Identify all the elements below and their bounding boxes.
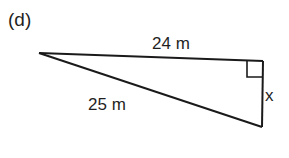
side-x-line xyxy=(262,61,263,127)
side-top-line xyxy=(39,53,263,61)
hypotenuse-label: 25 m xyxy=(88,96,126,113)
hypotenuse-line xyxy=(39,53,262,127)
part-label: (d) xyxy=(8,10,31,29)
side-x-label: x xyxy=(265,87,274,104)
triangle-diagram xyxy=(0,0,289,158)
right-angle-marker-icon xyxy=(247,61,263,78)
right-triangle-figure: (d) 24 m 25 m x xyxy=(0,0,289,158)
side-top-label: 24 m xyxy=(152,35,190,52)
